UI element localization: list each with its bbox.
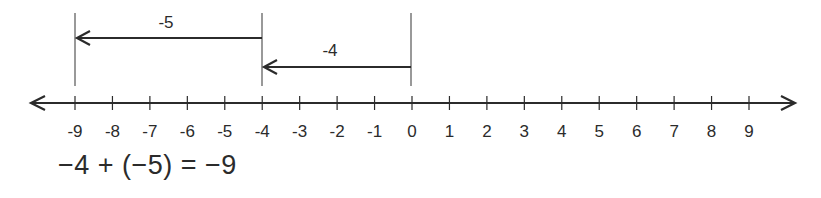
number-line-axis	[31, 96, 795, 110]
tick-label: 2	[482, 122, 491, 141]
tick-label: 8	[707, 122, 716, 141]
tick-label: -1	[367, 122, 382, 141]
tick-label: -2	[330, 122, 345, 141]
jump-label-neg4: -4	[322, 41, 337, 60]
tick-label: -9	[67, 122, 82, 141]
tick-label: -8	[105, 122, 120, 141]
tick-label: 1	[445, 122, 454, 141]
tick-label: 5	[594, 122, 603, 141]
tick-labels: -9-8-7-6-5-4-3-2-10123456789	[67, 122, 753, 141]
jump-label-neg5: -5	[158, 13, 173, 32]
tick-label: -5	[217, 122, 232, 141]
tick-label: 9	[744, 122, 753, 141]
tick-label: -6	[180, 122, 195, 141]
tick-label: 4	[557, 122, 566, 141]
tick-label: -4	[255, 122, 270, 141]
jump-arrow-neg4: -4	[264, 41, 411, 74]
tick-label: 0	[407, 122, 416, 141]
equation: −4 + (−5) = −9	[58, 150, 237, 181]
tick-label: 3	[520, 122, 529, 141]
tick-label: -7	[142, 122, 157, 141]
tick-label: 6	[632, 122, 641, 141]
jump-arrow-neg5: -5	[77, 13, 262, 45]
tick-label: 7	[669, 122, 678, 141]
tick-label: -3	[292, 122, 307, 141]
